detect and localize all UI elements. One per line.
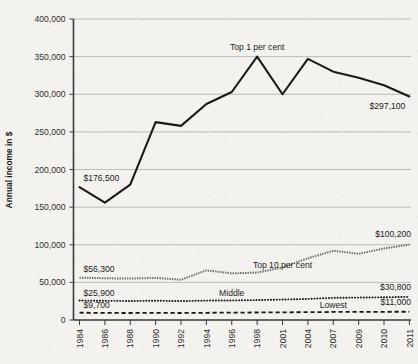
series-line-middle bbox=[80, 297, 410, 301]
value-label-lowest-start: $9,700 bbox=[84, 300, 111, 310]
series-line-top-1-per-cent bbox=[80, 57, 410, 203]
value-label-top10-end: $100,200 bbox=[375, 229, 411, 239]
series-line-lowest bbox=[80, 312, 410, 313]
y-axis-tick-labels: 400,000350,000300,000250,000200,000150,0… bbox=[34, 14, 65, 325]
x-axis-tick-labels: 1984198619881990199219941996199820012004… bbox=[75, 329, 415, 348]
x-axis-tick-label: 1990 bbox=[151, 329, 161, 348]
y-axis-title: Annual income in $ bbox=[4, 131, 14, 208]
value-label-top10-start: $56,300 bbox=[84, 264, 115, 274]
x-axis-tick-label: 1994 bbox=[202, 329, 212, 348]
x-axis-tick-label: 1996 bbox=[227, 329, 237, 348]
x-axis-tick-label: 2001 bbox=[278, 329, 288, 348]
y-axis-tick-label: 0 bbox=[61, 315, 66, 325]
series-lines bbox=[80, 57, 410, 313]
y-axis-tick-label: 150,000 bbox=[34, 202, 65, 212]
gridlines bbox=[70, 19, 412, 320]
annotation-middle: Middle bbox=[219, 288, 245, 298]
y-axis-tick-label: 200,000 bbox=[34, 165, 65, 175]
x-axis-tick-label: 1992 bbox=[176, 329, 186, 348]
annotation-top-1-per-cent: Top 1 per cent bbox=[230, 42, 285, 52]
value-label-top1-end: $297,100 bbox=[370, 101, 406, 111]
x-axis-tick-label: 2010 bbox=[379, 329, 389, 348]
series-line-top-10-per-cent bbox=[80, 245, 410, 280]
y-axis-tick-label: 300,000 bbox=[34, 89, 65, 99]
x-axis-tick-label: 2009 bbox=[354, 329, 364, 348]
y-axis-tick-label: 350,000 bbox=[34, 52, 65, 62]
value-label-lowest-end: $11,000 bbox=[381, 297, 412, 307]
chart-page: 400,000350,000300,000250,000200,000150,0… bbox=[0, 0, 418, 364]
y-axis-tick-label: 400,000 bbox=[34, 14, 65, 24]
x-axis-tick-label: 1988 bbox=[125, 329, 135, 348]
income-line-chart: 400,000350,000300,000250,000200,000150,0… bbox=[0, 0, 418, 364]
x-axis-tick-label: 2007 bbox=[328, 329, 338, 348]
value-label-middle-start: $25,900 bbox=[84, 288, 115, 298]
value-label-top1-start: $176,500 bbox=[84, 173, 120, 183]
value-label-middle-end: $30,800 bbox=[380, 282, 411, 292]
y-axis-tick-label: 50,000 bbox=[39, 277, 66, 287]
x-axis-tick-label: 1998 bbox=[252, 329, 262, 348]
x-axis-tick-label: 2011 bbox=[405, 329, 415, 348]
y-axis-tick-label: 100,000 bbox=[34, 240, 65, 250]
annotation-lowest: Lowest bbox=[320, 300, 348, 310]
x-axis-tick-label: 1986 bbox=[100, 329, 110, 348]
x-axis-tick-label: 2004 bbox=[303, 329, 313, 348]
x-axis-tick-label: 1984 bbox=[75, 329, 85, 348]
y-axis-tick-label: 250,000 bbox=[34, 127, 65, 137]
annotation-top-10-per-cent: Top 10 per cent bbox=[253, 260, 313, 270]
